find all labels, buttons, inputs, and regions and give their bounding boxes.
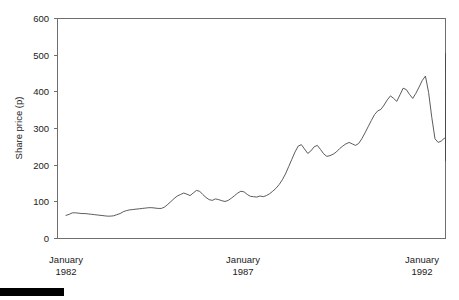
x-tick-label-1987-year: 1987 <box>232 266 253 277</box>
y-tick-label-400: 400 <box>33 86 49 97</box>
share-price-series-line <box>66 53 446 216</box>
y-axis-ticks <box>54 19 58 239</box>
x-tick-label-1982-month: January <box>49 254 83 265</box>
y-axis-title: Share price (p) <box>13 97 24 160</box>
bottom-left-black-bar <box>0 288 64 296</box>
y-tick-label-100: 100 <box>33 196 49 207</box>
y-axis-tick-labels: 600 500 400 300 200 100 0 <box>33 13 49 244</box>
x-tick-label-1982-year: 1982 <box>55 266 76 277</box>
share-price-line-chart: 600 500 400 300 200 100 0 Share price (p… <box>0 0 459 300</box>
plot-frame <box>58 19 446 239</box>
y-tick-label-600: 600 <box>33 13 49 24</box>
y-tick-label-300: 300 <box>33 123 49 134</box>
figure-container: 600 500 400 300 200 100 0 Share price (p… <box>0 0 459 300</box>
x-axis-tick-labels: January 1982 January 1987 January 1992 <box>49 254 439 277</box>
x-tick-label-1992-month: January <box>405 254 439 265</box>
y-tick-label-0: 0 <box>44 233 49 244</box>
x-tick-label-1992-year: 1992 <box>411 266 432 277</box>
y-tick-label-500: 500 <box>33 50 49 61</box>
x-tick-label-1987-month: January <box>226 254 260 265</box>
y-tick-label-200: 200 <box>33 160 49 171</box>
